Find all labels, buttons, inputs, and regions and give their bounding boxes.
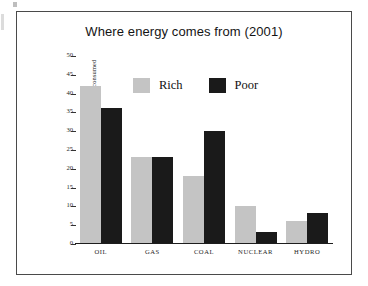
bar-rich-gas <box>131 157 152 243</box>
bar-group <box>178 56 230 243</box>
y-tick-label: 25 <box>47 145 73 155</box>
bar-poor-hydro <box>307 213 328 243</box>
x-axis-label: HYDRO <box>281 248 333 255</box>
x-axis-label: NUCLEAR <box>230 248 282 255</box>
scan-artifact-mark <box>13 2 17 7</box>
y-tick-label: 20 <box>47 164 73 174</box>
y-tick-label: 5 <box>47 220 73 230</box>
bar-poor-coal <box>204 131 225 243</box>
bar-rich-nuclear <box>235 206 256 243</box>
x-axis-label: GAS <box>127 248 179 255</box>
x-axis-labels: OILGASCOALNUCLEARHYDRO <box>75 248 333 255</box>
bar-rich-coal <box>183 176 204 243</box>
x-axis-line <box>75 243 333 244</box>
bar-group <box>281 56 333 243</box>
bar-group <box>230 56 282 243</box>
x-axis-label: OIL <box>75 248 127 255</box>
chart-title: Where energy comes from (2001) <box>17 24 351 39</box>
x-axis-label: COAL <box>178 248 230 255</box>
plot-area: % of total energy consumed 5045403530252… <box>75 56 333 244</box>
y-tick-label: 10 <box>47 201 73 211</box>
scan-artifact-edge <box>1 14 4 30</box>
bars-layer <box>75 56 333 243</box>
y-tick-label: 50 <box>47 51 73 61</box>
bar-rich-hydro <box>286 221 307 243</box>
y-tick-label: 35 <box>47 107 73 117</box>
bar-group <box>127 56 179 243</box>
bar-poor-gas <box>152 157 173 243</box>
y-tick-label: 0 <box>47 239 73 249</box>
bar-poor-nuclear <box>256 232 277 243</box>
bar-group <box>75 56 127 243</box>
y-tick-label: 40 <box>47 89 73 99</box>
chart-figure-frame: Where energy comes from (2001) Rich Poor… <box>16 11 352 275</box>
y-tick-label: 15 <box>47 183 73 193</box>
bar-poor-oil <box>101 108 122 243</box>
y-tick-label: 45 <box>47 70 73 80</box>
y-tick-mark <box>71 244 76 245</box>
y-tick-label: 30 <box>47 126 73 136</box>
bar-rich-oil <box>80 86 101 243</box>
